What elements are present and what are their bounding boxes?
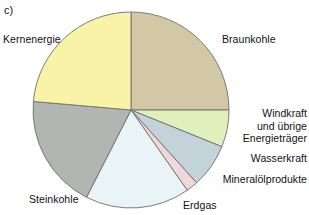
pie-chart-figure: c) Braunkohle Windkraft und übrige Energ… — [0, 0, 309, 215]
slice-label-steinkohle: Steinkohle — [29, 193, 79, 206]
slice-label-windkraft-line3: Energieträger — [243, 132, 307, 144]
slice-label-kernenergie: Kernenergie — [3, 33, 61, 46]
pie-slice-kernenergie — [33, 12, 131, 110]
slice-label-braunkohle: Braunkohle — [222, 33, 276, 46]
slice-label-windkraft: Windkraft und übrige Energieträger — [215, 107, 307, 145]
slice-label-mineraloelprodukte: Mineralölprodukte — [192, 173, 307, 186]
slice-label-wasserkraft: Wasserkraft — [215, 152, 307, 165]
slice-label-erdgas: Erdgas — [183, 199, 217, 212]
slice-label-windkraft-line1: Windkraft — [262, 107, 307, 119]
pie-slice-braunkohle — [131, 12, 229, 110]
slice-label-windkraft-line2: und übrige — [257, 120, 307, 132]
